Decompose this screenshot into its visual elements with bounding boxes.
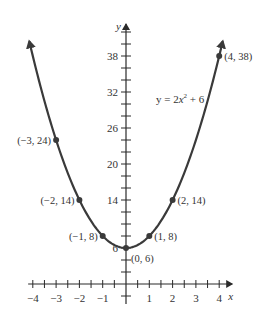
point-label: (−1, 8) — [69, 231, 98, 243]
point-label: (4, 38) — [224, 51, 252, 63]
point-label: (2, 14) — [178, 195, 206, 207]
y-axis-label: y — [115, 20, 121, 32]
point-label: (0, 6) — [131, 253, 154, 265]
x-axis-label: x — [227, 290, 233, 302]
y-tick-label: 38 — [107, 50, 119, 62]
y-tick-label: 6 — [113, 242, 119, 254]
curve-right-branch — [126, 41, 223, 248]
x-tick-label: −4 — [27, 292, 39, 304]
data-point — [216, 53, 222, 59]
points-layer — [53, 53, 222, 251]
data-point — [170, 197, 176, 203]
equation-lhs: y = 2 — [156, 93, 179, 105]
parabola-chart: −4−3−2−1123461420263238xy(−3, 24)(−2, 14… — [0, 0, 269, 326]
y-tick-label: 14 — [107, 194, 119, 206]
x-tick-label: 3 — [193, 292, 199, 304]
data-point — [76, 197, 82, 203]
equation-label: y = 2x2 + 6 — [156, 92, 205, 105]
data-point — [53, 137, 59, 143]
point-label: (1, 8) — [154, 231, 177, 243]
point-label: (−2, 14) — [40, 195, 74, 207]
point-label: (−3, 24) — [17, 135, 51, 147]
y-tick-label: 32 — [107, 86, 118, 98]
x-tick-label: 2 — [170, 292, 176, 304]
data-point — [123, 245, 129, 251]
x-tick-label: 1 — [147, 292, 153, 304]
data-point — [100, 233, 106, 239]
y-tick-label: 20 — [107, 158, 119, 170]
equation-rhs: + 6 — [187, 93, 205, 105]
data-point — [146, 233, 152, 239]
x-tick-label: −1 — [97, 292, 109, 304]
x-tick-label: 4 — [216, 292, 222, 304]
x-tick-label: −2 — [74, 292, 86, 304]
y-tick-label: 26 — [107, 122, 119, 134]
x-tick-label: −3 — [50, 292, 62, 304]
